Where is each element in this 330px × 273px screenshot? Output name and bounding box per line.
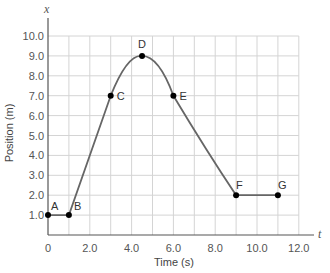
point-b bbox=[66, 212, 72, 218]
point-f bbox=[233, 192, 239, 198]
x-tick-label: 4.0 bbox=[124, 242, 139, 254]
point-label: E bbox=[179, 90, 186, 102]
point-e bbox=[170, 93, 176, 99]
point-label: A bbox=[51, 200, 59, 212]
x-tick-label: 12.0 bbox=[288, 242, 309, 254]
y-tick-label: 4.0 bbox=[29, 149, 44, 161]
x-tick-label: 2.0 bbox=[82, 242, 97, 254]
point-g bbox=[275, 192, 281, 198]
position-time-chart: 02.04.06.08.010.012.01.02.03.04.05.06.07… bbox=[0, 0, 330, 273]
y-tick-label: 6.0 bbox=[29, 110, 44, 122]
y-tick-label: 2.0 bbox=[29, 189, 44, 201]
point-label: C bbox=[117, 90, 125, 102]
point-label: D bbox=[138, 38, 146, 50]
grid bbox=[48, 36, 299, 235]
x-tick-label: 6.0 bbox=[166, 242, 181, 254]
y-tick-label: 9.0 bbox=[29, 50, 44, 62]
y-tick-label: 5.0 bbox=[29, 130, 44, 142]
point-a bbox=[45, 212, 51, 218]
point-label: G bbox=[278, 179, 287, 191]
y-tick-label: 7.0 bbox=[29, 90, 44, 102]
point-label: B bbox=[74, 200, 81, 212]
point-d bbox=[139, 53, 145, 59]
x-tick-label: 8.0 bbox=[208, 242, 223, 254]
y-axis-label: Position (m) bbox=[3, 104, 15, 163]
x-tick-label: 10.0 bbox=[246, 242, 267, 254]
data-points: ABCDEFG bbox=[45, 38, 286, 218]
x-axis-label: Time (s) bbox=[154, 256, 194, 268]
y-tick-label: 8.0 bbox=[29, 70, 44, 82]
y-tick-label: 3.0 bbox=[29, 169, 44, 181]
x-axis-variable: t bbox=[318, 227, 322, 241]
y-tick-label: 10.0 bbox=[23, 30, 44, 42]
point-c bbox=[108, 93, 114, 99]
y-axis-variable: x bbox=[43, 2, 50, 16]
x-tick-label: 0 bbox=[45, 242, 51, 254]
point-label: F bbox=[236, 179, 243, 191]
y-tick-label: 1.0 bbox=[29, 209, 44, 221]
